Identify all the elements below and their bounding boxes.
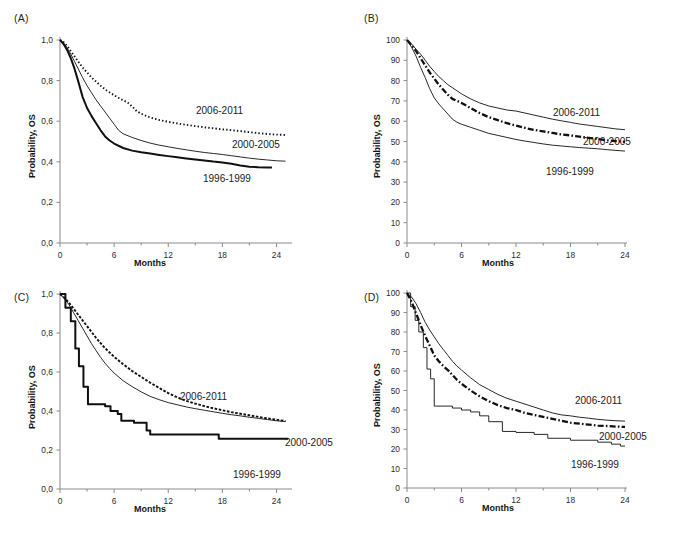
panel-c-plot: 0,00,20,40,60,81,006121824 xyxy=(0,279,350,558)
series-annotation-1996-1999: 1996-1999 xyxy=(233,469,281,480)
series-annotation-2000-2005: 2000-2005 xyxy=(285,437,333,448)
panel-d: (D) Probability, OS Months 0102030405060… xyxy=(350,279,700,558)
x-tick-label: 0 xyxy=(58,250,63,260)
y-tick-label: 80 xyxy=(391,327,401,337)
y-tick-label: 40 xyxy=(391,157,401,167)
y-tick-label: 30 xyxy=(391,425,401,435)
y-tick-label: 0,2 xyxy=(41,445,53,455)
x-tick-label: 0 xyxy=(405,495,410,505)
x-tick-label: 0 xyxy=(405,250,410,260)
panel-b-plot: 010203040506070809010006121824 xyxy=(350,0,700,279)
y-tick-label: 0,4 xyxy=(41,157,53,167)
curve-2006-2011 xyxy=(60,294,285,421)
y-tick-label: 50 xyxy=(391,386,401,396)
y-tick-label: 0 xyxy=(395,483,400,493)
y-tick-label: 0,6 xyxy=(41,367,53,377)
panel-c: (C) Probability, OS Months 0,00,20,40,60… xyxy=(0,279,350,558)
y-tick-label: 20 xyxy=(391,444,401,454)
y-tick-label: 1,0 xyxy=(41,289,53,299)
y-tick-label: 0,4 xyxy=(41,406,53,416)
y-tick-label: 0,8 xyxy=(41,328,53,338)
series-annotation-2006-2011: 2006-2011 xyxy=(553,107,600,118)
x-tick-label: 24 xyxy=(620,250,630,260)
x-tick-label: 18 xyxy=(566,250,576,260)
series-annotation-2000-2005: 2000-2005 xyxy=(599,431,647,442)
x-tick-label: 6 xyxy=(459,495,464,505)
x-tick-label: 18 xyxy=(566,495,576,505)
y-tick-label: 10 xyxy=(391,218,401,228)
x-tick-label: 12 xyxy=(164,496,174,506)
panel-b: (B) Probability, OS Months 0102030405060… xyxy=(350,0,700,279)
x-tick-label: 6 xyxy=(112,250,117,260)
curve-1996-1999 xyxy=(407,40,625,151)
panel-a: (A) Probability, OS Months 0,00,20,40,60… xyxy=(0,0,350,279)
y-tick-label: 60 xyxy=(391,366,401,376)
y-tick-label: 100 xyxy=(386,288,400,298)
y-tick-label: 100 xyxy=(386,35,400,45)
curve-2000-2005 xyxy=(407,40,625,142)
x-tick-label: 18 xyxy=(218,496,228,506)
y-tick-label: 70 xyxy=(391,347,401,357)
curve-1996-1999 xyxy=(407,293,625,446)
x-tick-label: 0 xyxy=(58,496,63,506)
x-tick-label: 12 xyxy=(511,495,521,505)
y-tick-label: 80 xyxy=(391,76,401,86)
y-tick-label: 0,0 xyxy=(41,484,53,494)
y-tick-label: 40 xyxy=(391,405,401,415)
panel-d-plot: 010203040506070809010006121824 xyxy=(350,279,700,558)
x-tick-label: 12 xyxy=(511,250,521,260)
series-annotation-2006-2011: 2006-2011 xyxy=(180,391,227,402)
y-tick-label: 0,2 xyxy=(41,197,53,207)
y-tick-label: 20 xyxy=(391,197,401,207)
y-tick-label: 60 xyxy=(391,116,401,126)
series-annotation-2006-2011: 2006-2011 xyxy=(196,105,243,116)
x-tick-label: 12 xyxy=(164,250,174,260)
y-tick-label: 50 xyxy=(391,137,401,147)
x-tick-label: 24 xyxy=(272,496,282,506)
x-tick-label: 24 xyxy=(272,250,282,260)
y-tick-label: 0 xyxy=(395,238,400,248)
y-tick-label: 0,6 xyxy=(41,116,53,126)
y-tick-label: 0,8 xyxy=(41,76,53,86)
panel-a-plot: 0,00,20,40,60,81,006121824 xyxy=(0,0,350,279)
y-tick-label: 70 xyxy=(391,96,401,106)
series-annotation-1996-1999: 1996-1999 xyxy=(203,173,251,184)
series-annotation-1996-1999: 1996-1999 xyxy=(546,166,594,177)
y-tick-label: 10 xyxy=(391,464,401,474)
series-annotation-1996-1999: 1996-1999 xyxy=(571,459,619,470)
series-annotation-2000-2005: 2000-2005 xyxy=(583,136,631,147)
x-tick-label: 6 xyxy=(112,496,117,506)
x-tick-label: 6 xyxy=(459,250,464,260)
y-tick-label: 90 xyxy=(391,308,401,318)
y-tick-label: 30 xyxy=(391,177,401,187)
curve-2000-2005 xyxy=(60,294,285,422)
curve-2000-2005 xyxy=(407,293,625,427)
y-tick-label: 90 xyxy=(391,55,401,65)
y-tick-label: 0,0 xyxy=(41,238,53,248)
x-tick-label: 24 xyxy=(620,495,630,505)
x-tick-label: 18 xyxy=(218,250,228,260)
survival-curves-figure: (A) Probability, OS Months 0,00,20,40,60… xyxy=(0,0,700,558)
series-annotation-2000-2005: 2000-2005 xyxy=(232,139,280,150)
series-annotation-2006-2011: 2006-2011 xyxy=(575,395,622,406)
y-tick-label: 1,0 xyxy=(41,35,53,45)
